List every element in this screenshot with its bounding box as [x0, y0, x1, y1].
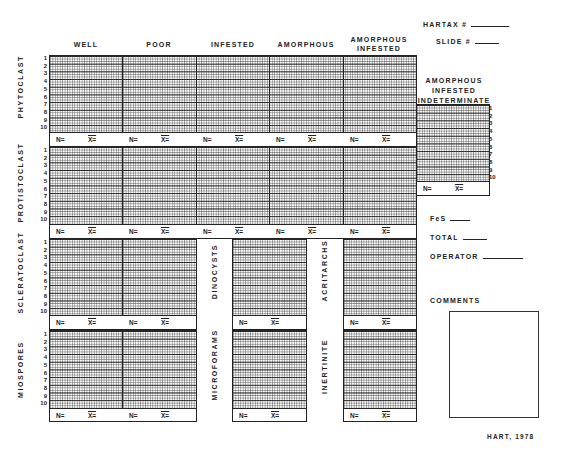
hartax-input-line[interactable] [471, 20, 509, 27]
summary-cell-well[interactable]: N=X= [50, 316, 123, 329]
row-numbers-phytoclast: 12345678910 [37, 55, 47, 132]
operator-label: OPERATOR [430, 253, 479, 260]
grid-protistoclast[interactable] [49, 146, 417, 225]
row-numbers-scleratoclast: 12345678910 [37, 239, 47, 316]
summary-cell-infested[interactable]: N=X= [197, 133, 270, 146]
group-label-dinocysts: DINOCYSTS [211, 242, 218, 302]
row-numbers-indeterminate: 12345678910 [489, 105, 499, 182]
fes-label: FeS [430, 215, 446, 222]
hartax-field[interactable]: HARTAX # [423, 20, 509, 28]
group-label-phytoclast: PHYTOCLAST [17, 59, 24, 119]
hartax-label: HARTAX # [423, 21, 467, 28]
group-label-miospores: MIOSPORES [17, 340, 24, 400]
column-header-amorphous-infested: AMORPHOUS INFESTED [346, 35, 412, 53]
comments-label: COMMENTS [430, 297, 480, 304]
grid-dinocysts[interactable] [232, 238, 307, 316]
summary-row-dinocysts: N=X= [232, 315, 307, 330]
grid-phytoclast[interactable] [49, 55, 417, 133]
total-field[interactable]: TOTAL [430, 233, 487, 241]
summary-cell-amorphous[interactable]: N=X= [270, 225, 343, 238]
summary-cell-well[interactable]: N=X= [50, 133, 123, 146]
indeterminate-header-line2: INFESTED [416, 86, 492, 95]
summary-cell-well[interactable]: N=X= [50, 409, 123, 421]
column-header-infested: INFESTED [196, 40, 270, 49]
summary-row-miospores: N=X= N=X= [49, 408, 197, 422]
credit-text: HART, 1978 [487, 433, 534, 440]
row-numbers-miospores: 12345678910 [37, 331, 47, 408]
group-label-inertinite: INERTINITE [321, 337, 328, 397]
operator-field[interactable]: OPERATOR [430, 252, 523, 260]
group-label-protistoclast: PROTISTOCLAST [17, 151, 24, 223]
summary-cell-well[interactable]: N=X= [50, 225, 123, 238]
summary-row-phytoclast: N=X= N=X= N=X= N=X= N=X= [49, 132, 417, 147]
summary-cell-amorphous-infested[interactable]: N=X= [344, 225, 417, 238]
slide-field[interactable]: SLIDE # [436, 37, 499, 45]
summary-row-protistoclast: N=X= N=X= N=X= N=X= N=X= [49, 224, 417, 239]
summary-cell-inertinite[interactable]: N=X= [344, 409, 417, 421]
comments-box[interactable] [449, 311, 539, 418]
fes-input-line[interactable] [450, 214, 470, 221]
fes-field[interactable]: FeS [430, 214, 470, 222]
summary-cell-poor[interactable]: N=X= [123, 316, 196, 329]
summary-cell-poor[interactable]: N=X= [123, 133, 196, 146]
total-input-line[interactable] [463, 233, 487, 240]
summary-cell-amorphous[interactable]: N=X= [270, 133, 343, 146]
slide-label: SLIDE # [436, 38, 471, 45]
summary-cell-indeterminate[interactable]: N=X= [417, 182, 490, 195]
summary-cell-microforams[interactable]: N=X= [233, 409, 306, 421]
summary-cell-acritarchs[interactable]: N=X= [344, 316, 417, 329]
summary-row-acritarchs: N=X= [343, 315, 417, 330]
slide-input-line[interactable] [475, 37, 499, 44]
column-header-poor: POOR [122, 40, 196, 49]
total-label: TOTAL [430, 234, 459, 241]
grid-microforams[interactable] [232, 330, 307, 409]
summary-row-scleratoclast: N=X= N=X= [49, 315, 197, 330]
summary-cell-amorphous-infested[interactable]: N=X= [344, 133, 417, 146]
row-numbers-protistoclast: 12345678910 [37, 147, 47, 224]
summary-cell-dinocysts[interactable]: N=X= [233, 316, 306, 329]
summary-cell-poor[interactable]: N=X= [123, 409, 196, 421]
summary-row-inertinite: N=X= [343, 408, 417, 422]
summary-row-microforams: N=X= [232, 408, 307, 422]
summary-cell-poor[interactable]: N=X= [123, 225, 196, 238]
operator-input-line[interactable] [483, 252, 523, 259]
group-label-scleratoclast: SCLERATOCLAST [17, 242, 24, 314]
column-header-well: WELL [49, 40, 123, 49]
column-header-amorphous: AMORPHOUS [269, 40, 343, 49]
grid-acritarchs[interactable] [343, 238, 417, 316]
grid-amorphous-infested-indeterminate[interactable] [416, 104, 490, 182]
group-label-acritarchs: ACRITARCHS [321, 242, 328, 302]
group-label-microforams: MICROFORAMS [211, 331, 218, 401]
summary-cell-infested[interactable]: N=X= [197, 225, 270, 238]
indeterminate-header-line1: AMORPHOUS [416, 76, 492, 85]
grid-inertinite[interactable] [343, 330, 417, 409]
summary-row-indeterminate: N=X= [416, 181, 490, 196]
